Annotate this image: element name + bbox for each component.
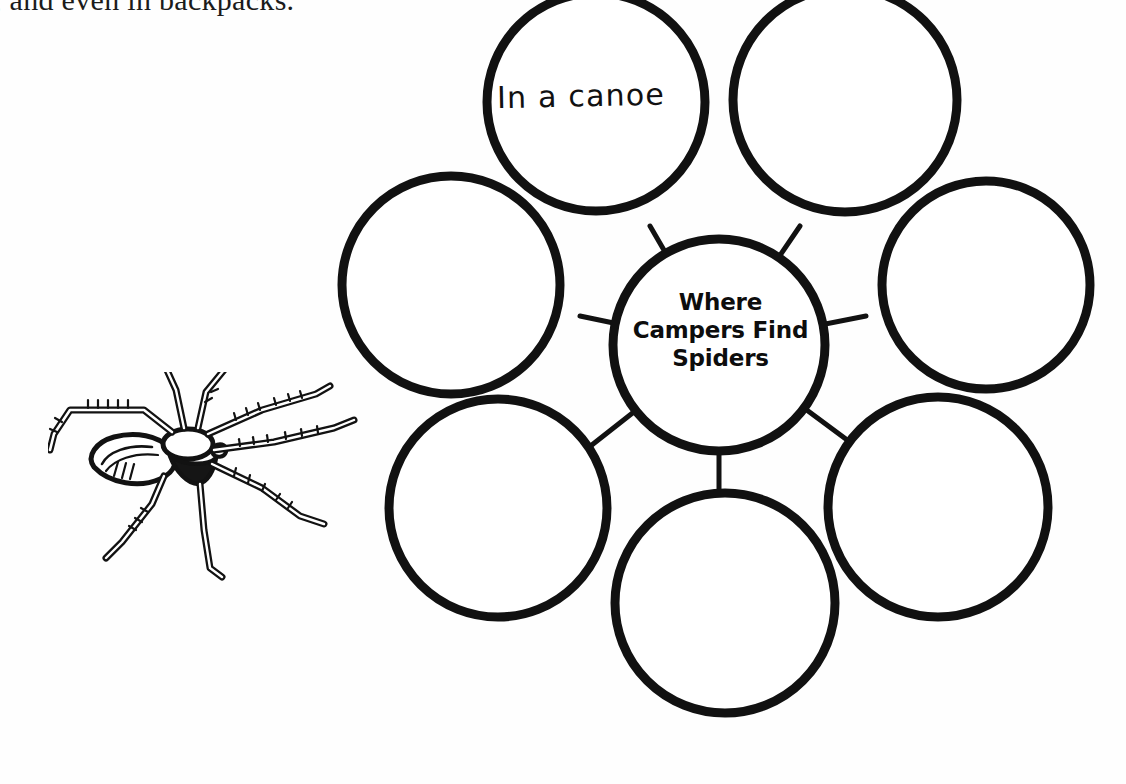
worksheet-page: , and even in backpacks. <box>0 0 1126 784</box>
bubble-top-right[interactable] <box>733 0 957 212</box>
bubble-answer-top-left[interactable]: In a canoe <box>497 76 698 115</box>
bubble-bottom-left[interactable] <box>389 399 607 617</box>
bubble-bottom-right[interactable] <box>828 397 1048 617</box>
bubble-bottom[interactable] <box>615 493 835 713</box>
center-topic-line-1: Where <box>618 288 823 316</box>
center-topic-label: Where Campers Find Spiders <box>618 288 823 372</box>
body-paragraph-text: , and even in backpacks. <box>0 0 294 17</box>
center-topic-line-2: Campers Find <box>618 316 823 344</box>
spider-illustration <box>48 372 378 587</box>
center-topic-line-3: Spiders <box>618 344 823 372</box>
bubble-left[interactable] <box>342 176 560 394</box>
bubble-right[interactable] <box>882 181 1090 389</box>
